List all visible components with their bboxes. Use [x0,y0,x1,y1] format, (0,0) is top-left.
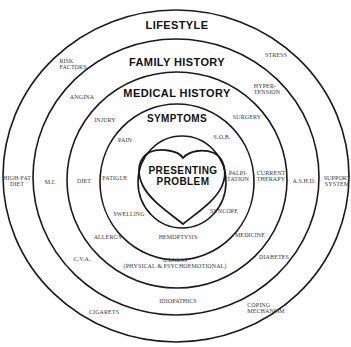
center-line-1: PRESENTING [148,165,217,176]
label-hypertension-line2: TENSION [254,89,280,95]
label-diabetes: DIABETES [259,254,289,260]
label-coping-mechanism-line2: MECHANISM [247,308,285,314]
label-mi: M.I. [45,179,56,185]
label-sob: S.O.B. [214,134,231,140]
heading-medical-history: MEDICAL HISTORY [123,87,230,99]
label-high-fat-diet: HIGH-FAT DIET [3,175,31,187]
label-palpitation: PALPI- TATION [227,170,249,182]
label-fatigue: FATIGUE [102,175,127,181]
label-medicine: MEDICINE [235,232,265,238]
label-injury: INJURY [94,117,116,123]
label-pain: PAIN [118,137,132,143]
label-syncope: SYNCOPE [210,208,238,214]
label-high-fat-diet-line2: DIET [3,181,31,187]
label-surgery: SURGERY [233,114,261,120]
label-idiopathics: IDIOPATHICS [159,298,197,304]
label-diet: DIET [77,178,91,184]
label-illness-line2: (PHYSICAL & PSYCHOEMOTIONAL) [124,263,227,269]
label-cva: C.V.A. [74,256,91,262]
label-illness: ILLNESS (PHYSICAL & PSYCHOEMOTIONAL) [124,257,227,269]
label-swelling: SWELLING [113,211,144,217]
label-angina: ANGINA [70,94,94,100]
label-support-system: SUPPORT SYSTEM [324,175,351,187]
label-hemoptysis: HEMOPTYSIS [159,234,198,240]
label-current-therapy: CURRENT THERAPY [257,170,286,182]
label-stress: STRESS [265,52,287,58]
heading-family-history: FAMILY HISTORY [129,56,225,68]
label-hypertension: HYPER- TENSION [254,83,280,95]
label-risk-factors-line2: FACTORS [59,64,86,70]
label-palpitation-line2: TATION [227,176,249,182]
label-current-therapy-line2: THERAPY [257,176,286,182]
heading-symptoms: SYMPTOMS [147,113,207,124]
label-coping-mechanism: COPING MECHANISM [247,302,285,314]
label-ashd: A.S.H.D. [292,178,315,184]
heading-lifestyle: LIFESTYLE [146,19,209,31]
label-risk-factors: RISK FACTORS [59,58,86,70]
center-line-2: PROBLEM [148,176,217,187]
presenting-problem-label: PRESENTING PROBLEM [148,165,217,187]
label-cigarets: CIGARETS [89,309,119,315]
label-support-system-line2: SYSTEM [324,181,351,187]
label-allergy: ALLERGY [94,234,123,240]
